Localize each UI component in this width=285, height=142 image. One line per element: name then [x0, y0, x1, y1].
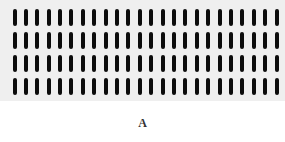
- vertical-bar: [104, 55, 108, 72]
- vertical-bar: [81, 9, 85, 26]
- vertical-bar: [206, 55, 210, 72]
- vertical-bar: [195, 55, 199, 72]
- vertical-bar: [69, 55, 73, 72]
- vertical-bar: [126, 32, 130, 49]
- vertical-bar: [161, 32, 165, 49]
- vertical-bar: [24, 9, 28, 26]
- vertical-bar: [92, 78, 96, 95]
- vertical-bar: [252, 9, 256, 26]
- vertical-bar: [229, 9, 233, 26]
- vertical-bar: [69, 32, 73, 49]
- vertical-bar: [183, 78, 187, 95]
- vertical-bar: [206, 78, 210, 95]
- vertical-bar: [229, 32, 233, 49]
- vertical-bar: [115, 32, 119, 49]
- vertical-bar: [126, 78, 130, 95]
- vertical-bar: [149, 55, 153, 72]
- vertical-bar: [183, 32, 187, 49]
- vertical-bar: [240, 9, 244, 26]
- bar-grid-panel: [0, 0, 285, 101]
- vertical-bar: [206, 9, 210, 26]
- vertical-bar: [275, 32, 279, 49]
- vertical-bar: [161, 78, 165, 95]
- vertical-bar: [172, 55, 176, 72]
- vertical-bar: [183, 55, 187, 72]
- vertical-bar: [275, 9, 279, 26]
- vertical-bar: [275, 55, 279, 72]
- vertical-bar: [35, 9, 39, 26]
- vertical-bar: [161, 9, 165, 26]
- figure-label: A: [0, 116, 285, 131]
- vertical-bar: [149, 9, 153, 26]
- vertical-bar: [115, 78, 119, 95]
- vertical-bar: [58, 32, 62, 49]
- vertical-bar: [183, 9, 187, 26]
- vertical-bar: [138, 55, 142, 72]
- vertical-bar: [263, 55, 267, 72]
- vertical-bar: [24, 32, 28, 49]
- vertical-bar: [172, 78, 176, 95]
- vertical-bar: [263, 9, 267, 26]
- vertical-bar: [138, 9, 142, 26]
- vertical-bar: [275, 78, 279, 95]
- vertical-bar: [13, 55, 17, 72]
- vertical-bar: [195, 32, 199, 49]
- vertical-bar: [35, 78, 39, 95]
- vertical-bar: [138, 32, 142, 49]
- vertical-bar: [47, 55, 51, 72]
- vertical-bar: [115, 9, 119, 26]
- vertical-bar: [58, 78, 62, 95]
- vertical-bar: [126, 55, 130, 72]
- vertical-bar: [172, 9, 176, 26]
- vertical-bar: [229, 55, 233, 72]
- vertical-bar: [252, 32, 256, 49]
- vertical-bar: [47, 9, 51, 26]
- vertical-bar: [240, 55, 244, 72]
- vertical-bar: [92, 9, 96, 26]
- vertical-bar: [104, 78, 108, 95]
- vertical-bar: [240, 78, 244, 95]
- vertical-bar: [263, 78, 267, 95]
- vertical-bar: [81, 32, 85, 49]
- vertical-bar: [69, 78, 73, 95]
- vertical-bar: [252, 78, 256, 95]
- vertical-bar: [24, 55, 28, 72]
- vertical-bar: [195, 9, 199, 26]
- vertical-bar: [240, 32, 244, 49]
- vertical-bar: [172, 32, 176, 49]
- vertical-bar: [69, 9, 73, 26]
- vertical-bar: [218, 55, 222, 72]
- vertical-bar: [252, 55, 256, 72]
- vertical-bar: [13, 9, 17, 26]
- vertical-bar: [13, 78, 17, 95]
- vertical-bar: [149, 78, 153, 95]
- vertical-bar: [218, 9, 222, 26]
- vertical-bar: [115, 55, 119, 72]
- vertical-bar: [24, 78, 28, 95]
- vertical-bar: [229, 78, 233, 95]
- vertical-bar: [218, 32, 222, 49]
- vertical-bar: [58, 55, 62, 72]
- vertical-bar: [13, 32, 17, 49]
- vertical-bar: [35, 32, 39, 49]
- vertical-bar: [92, 32, 96, 49]
- vertical-bar: [81, 55, 85, 72]
- vertical-bar: [195, 78, 199, 95]
- vertical-bar: [47, 32, 51, 49]
- vertical-bar: [218, 78, 222, 95]
- vertical-bar: [161, 55, 165, 72]
- vertical-bar: [206, 32, 210, 49]
- vertical-bar: [104, 32, 108, 49]
- vertical-bar: [35, 55, 39, 72]
- vertical-bar: [47, 78, 51, 95]
- vertical-bar: [138, 78, 142, 95]
- vertical-bar: [104, 9, 108, 26]
- vertical-bar: [263, 32, 267, 49]
- vertical-bar: [92, 55, 96, 72]
- vertical-bar: [81, 78, 85, 95]
- vertical-bar: [126, 9, 130, 26]
- vertical-bar: [149, 32, 153, 49]
- vertical-bar: [58, 9, 62, 26]
